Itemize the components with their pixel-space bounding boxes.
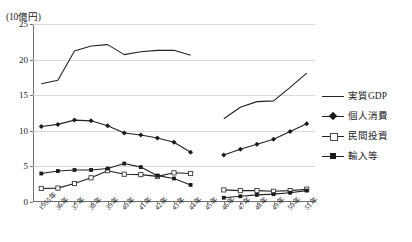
plot-area: 05101520251955年36年37年38年39年40年41年42年43年4… [33,24,315,202]
legend-marker-icon [322,151,344,162]
line-chart: (10億円) 05101520251955年36年37年38年39年40年41年… [0,0,412,242]
series-line [224,73,307,119]
y-tick-label: 15 [19,91,28,100]
legend-marker-icon [322,91,344,102]
data-point [39,124,44,129]
data-point [72,118,77,123]
data-point [238,189,242,193]
data-point [56,169,60,173]
data-point [254,142,259,147]
data-point [222,188,226,192]
data-point [288,191,292,195]
legend-label: 実質GDP [348,91,387,101]
data-point [139,172,143,176]
data-point [238,147,243,152]
legend-item-3[interactable]: 民間投資 [322,126,410,146]
series-2 [39,118,309,158]
y-tick-mark [30,202,33,203]
data-point [89,176,93,180]
data-point [271,137,276,142]
data-point [89,118,94,123]
legend-label: 個人消費 [348,111,388,121]
series-layer [33,24,315,202]
legend-item-4[interactable]: 輸入等 [322,146,410,166]
data-point [255,189,259,193]
chart-legend: 実質GDP個人消費民間投資輸入等 [322,86,410,166]
y-tick-label: 25 [19,20,28,29]
series-line [224,191,307,198]
data-point [156,174,160,178]
series-line [41,120,190,152]
data-point [288,129,293,134]
series-line [41,171,190,189]
data-point [272,192,276,196]
legend-item-1[interactable]: 実質GDP [322,86,410,106]
legend-label: 輸入等 [348,151,378,161]
data-point [138,133,143,138]
data-point [221,153,226,158]
data-point [56,186,60,190]
data-point [89,168,93,172]
data-point [105,123,110,128]
y-tick-label: 20 [19,55,28,64]
data-point [304,121,309,126]
legend-label: 民間投資 [348,131,388,141]
data-point [188,150,193,155]
data-point [139,165,143,169]
data-point [188,171,192,175]
series-4 [39,162,308,200]
legend-marker-icon [322,111,344,122]
data-point [172,140,177,145]
data-point [39,186,43,190]
legend-marker-icon [322,131,344,142]
data-point [122,162,126,166]
data-point [172,171,176,175]
legend-item-2[interactable]: 個人消費 [322,106,410,126]
y-tick-label: 0 [24,198,29,207]
series-line [224,124,307,155]
data-point [106,167,110,171]
data-point [172,177,176,181]
y-tick-label: 5 [24,162,29,171]
data-point [122,130,127,135]
data-point [189,183,193,187]
data-point [122,172,126,176]
data-point [155,135,160,140]
series-1 [41,45,306,119]
series-line [224,189,307,191]
data-point [222,196,226,200]
data-point [72,181,76,185]
series-3 [39,169,309,194]
data-point [55,122,60,127]
data-point [305,189,309,193]
data-point [73,168,77,172]
data-point [39,172,43,176]
y-tick-label: 10 [19,126,28,135]
data-point [255,193,259,197]
series-line [41,45,190,84]
data-point [238,194,242,198]
